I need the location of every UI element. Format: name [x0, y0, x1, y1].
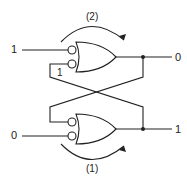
top-feedback-label: 1	[57, 67, 63, 78]
top-junction-dot	[141, 55, 145, 59]
bottom-input-label: 0	[11, 130, 17, 141]
top-nor-gate	[68, 42, 116, 72]
arrow-2-curve	[61, 26, 124, 42]
bottom-arrow-label: (1)	[86, 163, 98, 174]
bottom-nor-gate	[68, 114, 116, 144]
bottom-junction-dot	[141, 127, 145, 131]
top-arrow-label: (2)	[86, 11, 98, 22]
top-input-label: 1	[11, 44, 17, 55]
bottom-output-label: 1	[175, 124, 181, 135]
latch-diagram	[0, 0, 187, 186]
arrow-1-curve	[61, 144, 124, 160]
top-output-label: 0	[175, 52, 181, 63]
